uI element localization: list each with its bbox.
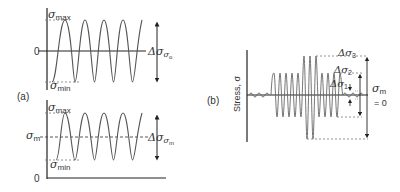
zero-label: 0 [34,173,40,184]
sigma-min-label: σmin [50,158,70,172]
delta3-label: Δσ3 [337,47,356,59]
panel-b-label: (b) [207,95,219,106]
sigma-max-label: σmax [48,8,71,22]
sigma-max-label: σmax [48,101,71,115]
mean-value-label: = 0 [374,98,387,108]
range-label: Δσσo [147,45,173,60]
sigma-mean-label: σm [372,82,387,96]
panel-a-bottom-plot: 0 σm σmax σmin Δσσm [26,100,174,184]
sigma-mean-label: σm [26,129,41,143]
large-amplitude-wave [301,56,319,139]
y-axis-label: Stress, σ [232,75,242,112]
zero-label: 0 [34,46,40,57]
panel-a-label: (a) [17,91,29,102]
sine-wave [56,113,142,160]
sigma-min-label: σmin [50,79,70,93]
stress-cycle-diagram: 0 σmax σmin Δσσo (a) 0 σm σmax σmin [0,0,400,192]
panel-b-plot: Δσ3 Δσ2 Δσ1 σm = 0 [247,47,387,142]
delta1-label: Δσ1 [329,78,348,90]
delta2-label: Δσ2 [333,64,352,76]
range-label: Δσσm [147,131,174,146]
panel-a-top-plot: 0 σmax σmin Δσσo [34,8,173,93]
